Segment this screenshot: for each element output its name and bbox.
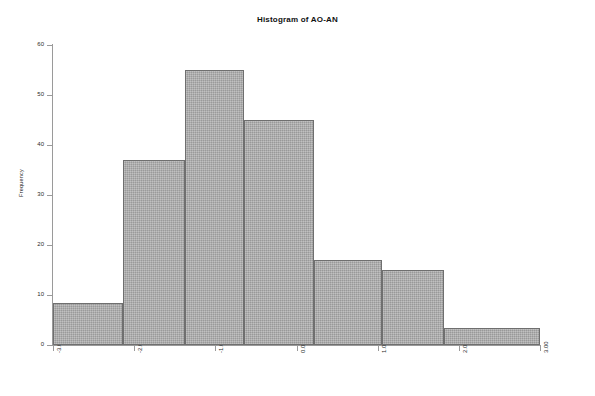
- y-axis-tick-label: 20: [28, 241, 44, 247]
- x-axis-tick: [215, 346, 216, 351]
- y-axis-tick: [47, 95, 52, 96]
- y-axis-tick: [47, 145, 52, 146]
- histogram-bar: [314, 260, 381, 345]
- y-axis-tick-label: 10: [28, 291, 44, 297]
- histogram-bar: [382, 270, 444, 345]
- y-axis-tick-label: 0: [28, 341, 44, 347]
- y-axis-tick: [47, 345, 52, 346]
- histogram-chart: Histogram of AO-AN Frequency 01020304050…: [0, 0, 595, 396]
- histogram-bar: [244, 120, 315, 345]
- y-axis-tick-label: 30: [28, 191, 44, 197]
- y-axis-tick: [47, 195, 52, 196]
- x-axis-tick: [459, 346, 460, 351]
- y-axis-tick-label: 50: [28, 91, 44, 97]
- histogram-bar: [53, 303, 123, 346]
- x-axis-tick: [540, 346, 541, 351]
- y-axis-tick: [47, 295, 52, 296]
- y-axis-tick: [47, 45, 52, 46]
- y-axis-title: Frequency: [18, 153, 24, 213]
- y-axis-tick: [47, 245, 52, 246]
- x-axis-tick: [53, 346, 54, 351]
- histogram-bar: [123, 160, 185, 345]
- chart-title: Histogram of AO-AN: [0, 15, 595, 24]
- histogram-bar: [444, 328, 540, 346]
- histogram-bar: [185, 70, 243, 345]
- x-axis-tick: [378, 346, 379, 351]
- y-axis-tick-label: 60: [28, 41, 44, 47]
- x-axis-tick: [134, 346, 135, 351]
- y-axis-tick-label: 40: [28, 141, 44, 147]
- x-axis-tick: [297, 346, 298, 351]
- x-axis-tick-label: 3.00: [543, 341, 549, 353]
- plot-area: [53, 45, 540, 345]
